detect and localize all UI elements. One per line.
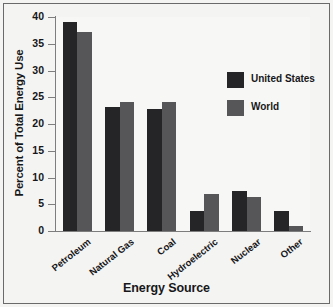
bar-united-states-other: [274, 211, 289, 231]
y-tick-label: 25: [14, 90, 44, 102]
bar-world-nuclear: [247, 197, 262, 231]
bar-united-states-natural-gas: [105, 107, 120, 231]
y-tick-mark: [48, 204, 55, 205]
bar-world-hydroelectric: [204, 194, 219, 231]
bar-world-other: [289, 226, 304, 231]
y-tick-mark: [48, 71, 55, 72]
x-axis-line: [55, 231, 311, 232]
y-tick-label: 15: [14, 144, 44, 156]
legend-label: World: [251, 101, 279, 112]
y-tick-label: 35: [14, 37, 44, 49]
bar-united-states-petroleum: [63, 22, 78, 231]
y-tick-label: 0: [14, 224, 44, 236]
bar-united-states-hydroelectric: [190, 211, 205, 231]
bar-world-natural-gas: [120, 102, 135, 231]
chart-legend: United StatesWorld: [227, 70, 323, 126]
legend-item-united-states: United States: [227, 70, 323, 92]
bar-world-coal: [162, 102, 177, 231]
y-tick-label: 40: [14, 10, 44, 22]
y-tick-label: 10: [14, 171, 44, 183]
y-tick-mark: [48, 178, 55, 179]
y-tick-mark: [48, 44, 55, 45]
x-axis-title: Energy Source: [0, 281, 333, 295]
legend-swatch: [227, 72, 244, 88]
bar-united-states-nuclear: [232, 191, 247, 231]
y-tick-mark: [48, 97, 55, 98]
y-tick-label: 20: [14, 117, 44, 129]
legend-label: United States: [251, 73, 315, 84]
bar-united-states-coal: [147, 109, 162, 232]
legend-item-world: World: [227, 98, 323, 120]
y-tick-mark: [48, 151, 55, 152]
y-tick-mark: [48, 231, 55, 232]
chart-figure: Percent of Total Energy Use 051015202530…: [0, 0, 333, 307]
y-tick-label: 30: [14, 64, 44, 76]
bar-world-petroleum: [77, 32, 92, 231]
legend-swatch: [227, 100, 244, 116]
y-tick-mark: [48, 17, 55, 18]
y-tick-mark: [48, 124, 55, 125]
y-tick-label: 5: [14, 197, 44, 209]
